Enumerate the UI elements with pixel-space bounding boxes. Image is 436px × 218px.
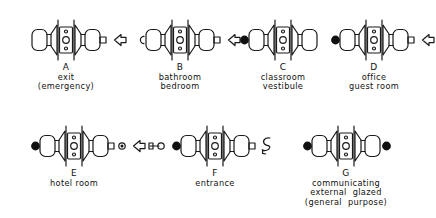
caption-e: Ehotel room	[0, 168, 154, 188]
lockset-symbol-f	[163, 124, 313, 172]
caption-d: Dofficeguest room	[294, 62, 436, 92]
lockset-symbol-e	[22, 124, 172, 172]
lock-symbols-diagram: Aexit(emergency)BbathroombedroomCclassro…	[0, 0, 436, 218]
caption-line-1: hotel room	[0, 179, 154, 189]
caption-line-2: guest room	[294, 82, 436, 92]
caption-g: Gcommunicatingexternal glazed(general pu…	[266, 168, 426, 208]
lockset-symbol-g	[294, 124, 436, 172]
caption-line-3: (general purpose)	[266, 198, 426, 208]
lockset-symbol-d	[322, 18, 436, 66]
